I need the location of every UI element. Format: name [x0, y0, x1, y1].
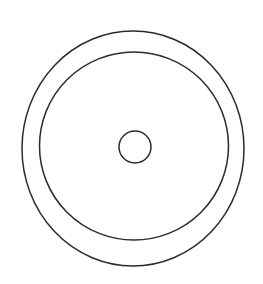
concentric-circles-diagram	[0, 0, 263, 284]
figure-root: Concentric circles line drawing Technica…	[0, 0, 263, 284]
